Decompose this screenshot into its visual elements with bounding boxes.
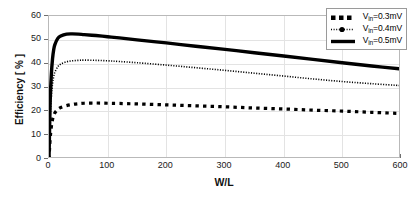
x-tick-label: 200 [150,161,180,170]
series-line-2 [49,34,400,158]
y-tick-label: 20 [15,106,41,115]
series-line-0 [49,103,400,158]
y-tick-label: 10 [15,130,41,139]
y-tick-mark [44,158,48,159]
x-tick-label: 400 [268,161,298,170]
legend-swatch-dashed [330,12,360,23]
legend-item-0[interactable]: Vin=0.3mV [330,11,402,23]
legend-item-2[interactable]: Vin=0.5mV [330,35,402,47]
x-tick-mark [400,154,401,158]
legend[interactable]: Vin=0.3mV Vin=0.4mV Vin=0.5mV [326,8,407,50]
y-tick-label: 50 [15,34,41,43]
legend-label-2: Vin=0.5mV [363,35,402,48]
y-tick-label: 60 [15,11,41,20]
legend-swatch-solid [330,36,360,47]
y-tick-label: 30 [15,82,41,91]
y-tick-label: 40 [15,58,41,67]
x-tick-label: 500 [326,161,356,170]
chart-figure: Efficiency [ % ] 0102030405060 010020030… [0,0,413,201]
x-axis-title: W/L [48,176,400,188]
legend-label-0: Vin=0.3mV [363,11,402,24]
x-tick-label: 300 [209,161,239,170]
series-line-1 [49,60,400,158]
x-tick-label: 0 [33,161,63,170]
legend-label-1: Vin=0.4mV [363,23,402,36]
x-tick-label: 600 [385,161,413,170]
legend-item-1[interactable]: Vin=0.4mV [330,23,402,35]
x-tick-label: 100 [92,161,122,170]
legend-swatch-dotted [330,24,360,35]
